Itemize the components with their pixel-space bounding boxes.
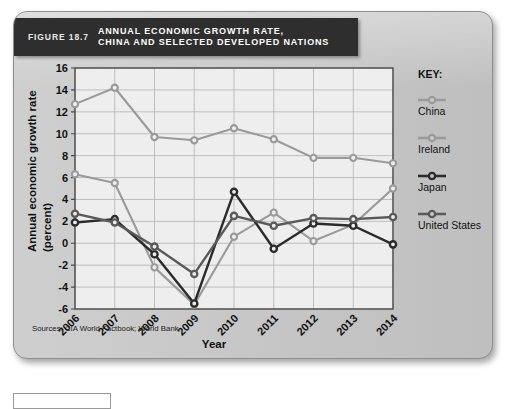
legend-swatch-marker xyxy=(429,173,435,179)
data-point xyxy=(231,234,237,240)
y-tick-label: 8 xyxy=(62,150,68,162)
legend-label: Japan xyxy=(418,181,447,193)
legend-item-united-states[interactable]: United States xyxy=(418,211,481,231)
y-axis-title: Annual economic growth rate xyxy=(26,90,38,252)
data-point xyxy=(231,125,237,131)
y-tick-label: -4 xyxy=(58,281,69,293)
data-point xyxy=(310,215,316,221)
y-axis-title-unit: (percent) xyxy=(41,203,53,252)
figure-title-banner: FIGURE 18.7 ANNUAL ECONOMIC GROWTH RATE,… xyxy=(14,18,358,56)
data-point xyxy=(72,101,78,107)
data-point xyxy=(310,238,316,244)
data-point xyxy=(231,189,237,195)
figure-title: ANNUAL ECONOMIC GROWTH RATE, CHINA AND S… xyxy=(98,26,329,49)
data-point xyxy=(390,241,396,247)
chart-area: -6-4-20246810121416 20062007200820092010… xyxy=(14,56,492,358)
growth-rate-line-chart: -6-4-20246810121416 20062007200820092010… xyxy=(14,56,492,358)
data-point xyxy=(72,171,78,177)
data-point xyxy=(112,219,118,225)
figure-number: FIGURE 18.7 xyxy=(28,32,89,42)
y-tick-label: -2 xyxy=(58,259,68,271)
data-point xyxy=(151,134,157,140)
data-point xyxy=(191,300,197,306)
data-point xyxy=(390,185,396,191)
data-point xyxy=(390,160,396,166)
legend-swatch-marker xyxy=(429,135,435,141)
legend-label: China xyxy=(418,105,446,117)
data-point xyxy=(350,223,356,229)
x-tick-label: 2014 xyxy=(374,311,400,337)
x-tick-label: 2006 xyxy=(56,312,82,338)
data-point xyxy=(231,213,237,219)
data-point xyxy=(191,137,197,143)
data-point xyxy=(72,211,78,217)
data-point xyxy=(151,251,157,257)
data-point xyxy=(191,271,197,277)
y-tick-label: 12 xyxy=(56,106,68,118)
legend-swatch-marker xyxy=(429,97,435,103)
y-tick-label: 6 xyxy=(62,172,68,184)
legend-heading: KEY: xyxy=(418,68,442,80)
y-tick-label: 10 xyxy=(56,128,68,140)
data-point xyxy=(350,216,356,222)
x-tick-label: 2008 xyxy=(135,312,161,338)
y-tick-label: 4 xyxy=(62,193,69,205)
x-tick-label: 2009 xyxy=(175,312,201,338)
x-tick-label: 2012 xyxy=(294,312,320,338)
legend-label: United States xyxy=(418,219,481,231)
chart-legend: KEY:ChinaIrelandJapanUnited States xyxy=(418,68,481,231)
data-point xyxy=(350,155,356,161)
x-tick-label: 2007 xyxy=(95,312,121,338)
y-tick-label: -6 xyxy=(58,303,68,315)
figure-card: FIGURE 18.7 ANNUAL ECONOMIC GROWTH RATE,… xyxy=(13,11,493,359)
data-point xyxy=(72,219,78,225)
data-point xyxy=(271,210,277,216)
y-tick-label: 14 xyxy=(56,84,69,96)
x-axis-title: Year xyxy=(202,338,227,350)
x-axis-tick-labels: 200620072008200920102011201220132014 xyxy=(56,311,400,337)
data-point xyxy=(151,243,157,249)
y-tick-label: 16 xyxy=(56,62,68,74)
data-point xyxy=(271,246,277,252)
y-axis-tick-labels: -6-4-20246810121416 xyxy=(56,62,75,315)
data-point xyxy=(112,85,118,91)
data-point xyxy=(151,264,157,270)
data-point xyxy=(390,214,396,220)
x-tick-label: 2013 xyxy=(334,312,360,338)
data-point xyxy=(271,136,277,142)
y-tick-label: 2 xyxy=(62,215,68,227)
page-thumbnail-strip xyxy=(13,393,111,409)
x-tick-label: 2011 xyxy=(255,312,280,337)
legend-swatch-marker xyxy=(429,211,435,217)
legend-item-ireland[interactable]: Ireland xyxy=(418,135,450,155)
y-tick-label: 0 xyxy=(62,237,68,249)
data-point xyxy=(271,223,277,229)
data-point xyxy=(310,155,316,161)
legend-item-japan[interactable]: Japan xyxy=(418,173,447,193)
x-tick-label: 2010 xyxy=(215,312,241,338)
data-point xyxy=(112,180,118,186)
legend-item-china[interactable]: China xyxy=(418,97,446,117)
legend-label: Ireland xyxy=(418,143,450,155)
